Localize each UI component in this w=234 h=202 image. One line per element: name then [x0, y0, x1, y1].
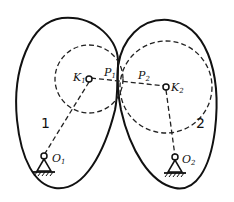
link-k1-o1 [44, 82, 89, 155]
label-p2: P2 [137, 69, 150, 83]
gear-pair-diagram: K1 P1 P2 K2 O1 O2 1 2 [0, 0, 234, 202]
center-line [91, 78, 165, 86]
label-p1: P1 [103, 66, 116, 80]
label-k2: K2 [170, 81, 184, 95]
center-k1-marker [86, 76, 92, 82]
label-k1: K1 [72, 71, 86, 85]
label-o1: O1 [52, 152, 66, 166]
body-2-outline [118, 20, 217, 189]
center-k2-marker [163, 84, 169, 90]
label-o2: O2 [182, 153, 196, 167]
label-body-1: 1 [41, 115, 50, 131]
link-k2-o2 [166, 90, 175, 156]
body-1-outline [16, 18, 118, 189]
label-body-2: 2 [196, 115, 205, 131]
